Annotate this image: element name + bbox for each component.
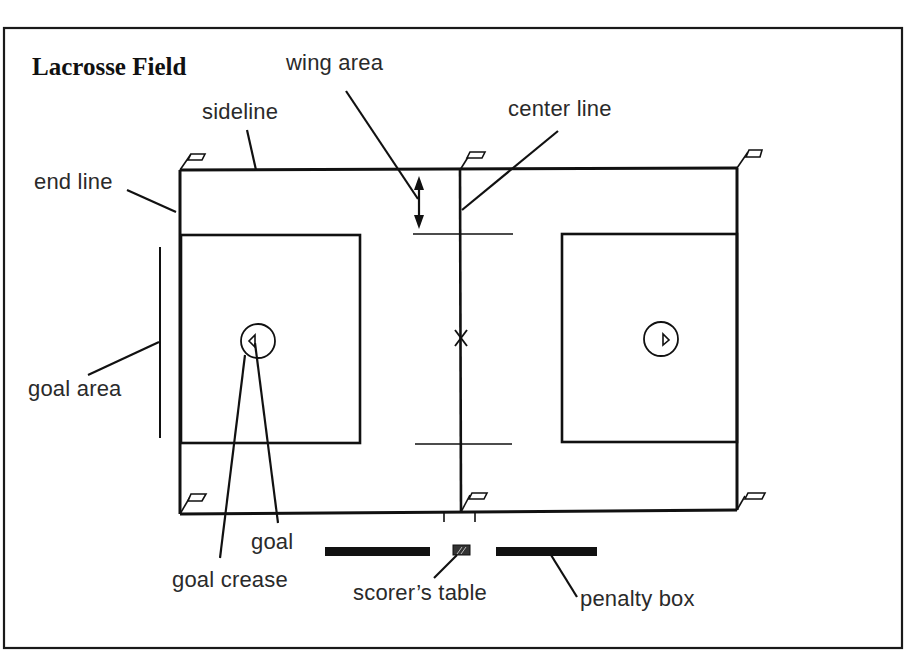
left-goal-area bbox=[181, 235, 360, 443]
wing-area-leader bbox=[346, 91, 418, 199]
label-sideline: sideline bbox=[202, 101, 278, 123]
label-wing-area: wing area bbox=[286, 52, 383, 74]
goal-leader bbox=[255, 343, 278, 523]
label-end-line: end line bbox=[34, 171, 113, 193]
right-goal-crease bbox=[644, 322, 678, 356]
flag-icon bbox=[180, 154, 205, 170]
penalty-box-right bbox=[496, 547, 597, 556]
field-drawing bbox=[0, 0, 912, 656]
right-goal-icon bbox=[663, 334, 669, 345]
diagram-title: Lacrosse Field bbox=[32, 54, 186, 79]
flag-icon bbox=[461, 493, 487, 512]
label-scorers-table: scorer’s table bbox=[353, 582, 487, 604]
penalty-box-leader bbox=[551, 555, 577, 597]
sideline-leader bbox=[247, 130, 256, 170]
label-center-line: center line bbox=[508, 98, 612, 120]
scorers-table-leader bbox=[434, 555, 457, 578]
leader-lines bbox=[88, 91, 577, 597]
label-goal-area: goal area bbox=[28, 378, 122, 400]
end-line-leader bbox=[127, 190, 176, 212]
flag-icon bbox=[737, 493, 765, 510]
label-goal: goal bbox=[251, 531, 293, 553]
right-goal-area bbox=[562, 234, 737, 442]
lacrosse-field-diagram: Lacrosse Field wing area sideline center… bbox=[0, 0, 912, 656]
left-goal-icon bbox=[249, 335, 255, 347]
left-goal-crease bbox=[241, 324, 275, 358]
penalty-box-left bbox=[325, 547, 430, 556]
center-line-leader bbox=[462, 131, 558, 210]
flag-icon bbox=[737, 150, 762, 168]
wing-lines bbox=[413, 234, 513, 444]
goal-area-leader bbox=[88, 342, 159, 375]
center-line bbox=[460, 170, 461, 512]
goal-crease-leader bbox=[220, 355, 245, 558]
flag-icon bbox=[180, 494, 206, 514]
label-goal-crease: goal crease bbox=[172, 569, 288, 591]
flag-icon bbox=[460, 152, 485, 170]
label-penalty-box: penalty box bbox=[580, 588, 695, 610]
wing-area-arrow-icon bbox=[414, 176, 424, 229]
